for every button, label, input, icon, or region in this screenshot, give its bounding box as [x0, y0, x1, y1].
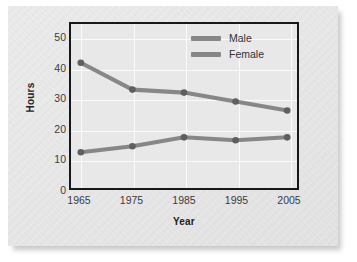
data-point [77, 149, 84, 156]
chart-legend: MaleFemale [191, 30, 264, 62]
legend-item[interactable]: Male [191, 30, 264, 46]
legend-label: Male [229, 32, 252, 44]
x-tick-label: 1975 [109, 194, 155, 206]
x-tick-label: 1965 [56, 194, 102, 206]
data-point [284, 134, 291, 141]
legend-swatch-icon [191, 52, 221, 57]
data-point [232, 137, 239, 144]
legend-label: Female [229, 48, 264, 60]
y-axis-title: Hours [25, 68, 36, 128]
figure-card: 50403020100 Hours MaleFemale 19651975198… [8, 6, 338, 246]
data-point [77, 59, 84, 66]
x-axis-title: Year [69, 216, 299, 227]
data-point [232, 98, 239, 105]
data-point [181, 134, 188, 141]
x-tick-label: 1985 [161, 194, 207, 206]
x-tick-label: 2005 [266, 194, 312, 206]
x-axis-ticks: 19651975198519952005 [69, 194, 299, 208]
y-tick-label: 10 [22, 154, 66, 164]
series-line [81, 63, 287, 111]
x-tick-label: 1995 [214, 194, 260, 206]
data-point [181, 89, 188, 96]
data-point [129, 86, 136, 93]
legend-swatch-icon [191, 36, 221, 41]
data-point [284, 107, 291, 114]
y-axis-ticks: 50403020100 [16, 22, 66, 190]
legend-item[interactable]: Female [191, 46, 264, 62]
data-point [129, 143, 136, 150]
y-tick-label: 50 [22, 32, 66, 42]
plot-area: MaleFemale [69, 22, 299, 190]
